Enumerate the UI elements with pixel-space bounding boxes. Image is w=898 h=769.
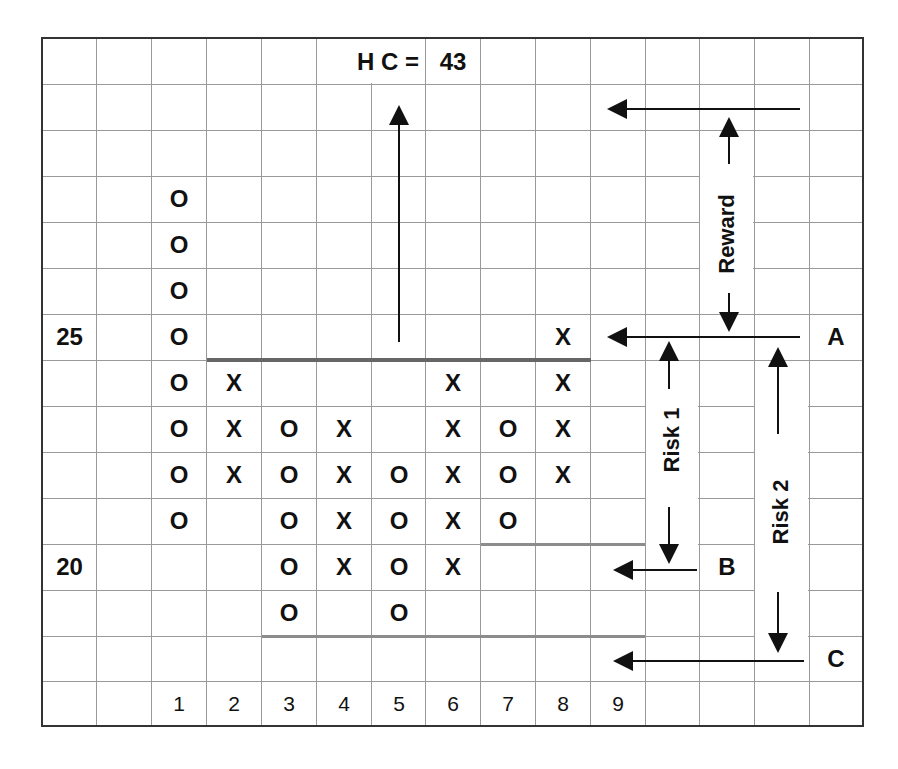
target-left-arrow-icon <box>607 99 800 119</box>
risk1-down-arrow-icon <box>659 507 679 564</box>
risk1-up-arrow-icon <box>659 341 679 389</box>
level-b-left-arrow-icon <box>613 560 697 580</box>
reward-up-arrow-icon <box>719 117 739 164</box>
arrows-layer <box>43 39 862 725</box>
risk2-up-arrow-icon <box>768 347 788 434</box>
level-a-left-arrow-icon <box>607 327 800 347</box>
point-and-figure-chart: H C = 43 25 20 O O O O O O O O X X X O O… <box>41 37 864 727</box>
risk2-down-arrow-icon <box>768 592 788 653</box>
level-c-left-arrow-icon <box>613 651 804 671</box>
target-up-arrow-icon <box>389 105 409 342</box>
reward-down-arrow-icon <box>719 293 739 332</box>
